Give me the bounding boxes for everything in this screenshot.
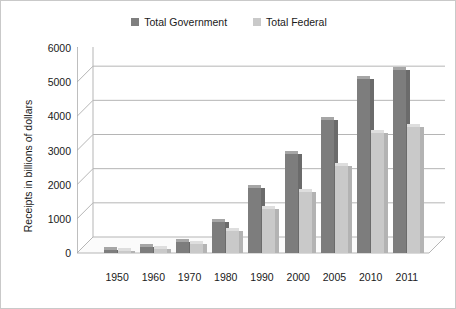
bar-group (280, 48, 316, 253)
y-axis-tick-label: 4000 (48, 110, 71, 122)
x-axis-tick-label: 2010 (359, 271, 382, 283)
bar-top (371, 130, 384, 133)
bar-face (154, 249, 167, 253)
bar-face (176, 242, 189, 253)
bar-total-government (104, 250, 117, 253)
x-axis-tick-label: 1970 (178, 271, 201, 283)
bar-face (226, 231, 239, 253)
bar-group (389, 48, 425, 253)
bar-top (226, 228, 239, 231)
y-axis-tick-label: 0 (65, 247, 71, 259)
bar-side (167, 249, 171, 253)
bar-face (357, 79, 370, 253)
y-axis-title: Receipts in billions of dollars (21, 61, 35, 271)
y-axis-tick-label: 6000 (48, 42, 71, 54)
y-axis-title-text: Receipts in billions of dollars (22, 100, 34, 232)
bar-face (190, 244, 203, 253)
bar-top (285, 151, 298, 154)
bar-side (203, 244, 207, 253)
bar-top (335, 163, 348, 166)
bar-total-government (321, 120, 334, 253)
bar-total-federal (371, 133, 384, 253)
bar-side (348, 166, 352, 253)
bar-side (239, 231, 243, 253)
bar-side (384, 133, 388, 253)
bar-total-federal (299, 192, 312, 254)
bar-top (154, 246, 167, 249)
bar-face (335, 166, 348, 253)
legend-item-total-government: Total Government (131, 16, 227, 28)
bar-total-federal (226, 231, 239, 253)
bar-face (104, 250, 117, 253)
bar-group (316, 48, 352, 253)
bar-chart: Total Government Total Federal Receipts … (0, 0, 456, 309)
bar-face (262, 209, 275, 253)
bar-total-government (140, 247, 153, 253)
bar-face (321, 120, 334, 253)
plot-area (77, 47, 445, 269)
bar-total-federal (335, 166, 348, 253)
bar-face (393, 70, 406, 253)
plot-wrapper: 0100020003000400050006000 19501960197019… (41, 47, 451, 287)
chart-legend: Total Government Total Federal (1, 16, 456, 28)
bar-face (299, 192, 312, 254)
bar-top (357, 76, 370, 79)
bar-top (104, 247, 117, 250)
bar-total-government (176, 242, 189, 253)
bar-total-government (212, 222, 225, 253)
x-axis-tick-label: 1960 (142, 271, 165, 283)
bar-face (248, 188, 261, 253)
bar-group (99, 48, 135, 253)
legend-label: Total Federal (266, 16, 327, 28)
x-axis-tick-label: 1980 (214, 271, 237, 283)
legend-item-total-federal: Total Federal (253, 16, 327, 28)
bar-top (321, 117, 334, 120)
bar-group (171, 48, 207, 253)
bar-face (212, 222, 225, 253)
bar-side (275, 209, 279, 253)
x-axis-tick-label: 2000 (287, 271, 310, 283)
bar-total-federal (118, 251, 131, 253)
x-axis-category-labels: 195019601970198019902000200520102011 (77, 271, 445, 289)
bar-group (135, 48, 171, 253)
legend-label: Total Government (144, 16, 227, 28)
bar-side (312, 192, 316, 254)
bar-side (420, 127, 424, 253)
x-axis-tick-label: 1990 (250, 271, 273, 283)
bar-total-federal (407, 127, 420, 253)
x-axis-tick-label: 2011 (396, 271, 419, 283)
bar-top (262, 206, 275, 209)
legend-swatch-icon (253, 18, 261, 26)
bar-face (140, 247, 153, 253)
bar-face (118, 251, 131, 253)
y-axis-tick-label: 5000 (48, 76, 71, 88)
y-axis-tick-label: 1000 (48, 213, 71, 225)
bar-total-federal (190, 244, 203, 253)
bar-total-federal (262, 209, 275, 253)
bar-side (131, 251, 135, 253)
bar-top (393, 67, 406, 70)
bar-total-government (393, 70, 406, 253)
bar-top (118, 248, 131, 251)
bar-top (212, 219, 225, 222)
bar-total-government (248, 188, 261, 253)
y-axis-tick-labels: 0100020003000400050006000 (41, 47, 75, 252)
bar-top (190, 241, 203, 244)
bar-top (248, 185, 261, 188)
y-axis-tick-label: 3000 (48, 145, 71, 157)
bar-total-government (285, 154, 298, 253)
bar-total-federal (154, 249, 167, 253)
bar-group (244, 48, 280, 253)
bar-top (407, 124, 420, 127)
legend-swatch-icon (131, 18, 139, 26)
bar-total-government (357, 79, 370, 253)
bar-top (140, 244, 153, 247)
bar-group (353, 48, 389, 253)
bars-layer (77, 47, 445, 269)
bar-face (371, 133, 384, 253)
bar-top (299, 189, 312, 192)
bar-face (285, 154, 298, 253)
y-axis-tick-label: 2000 (48, 179, 71, 191)
bar-face (407, 127, 420, 253)
bar-group (208, 48, 244, 253)
